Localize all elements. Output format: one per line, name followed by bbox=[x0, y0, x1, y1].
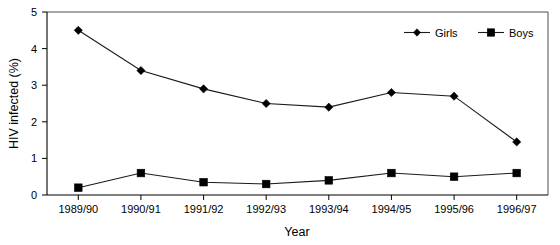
x-tick-label-4: 1993/94 bbox=[309, 203, 349, 215]
y-tick-label-2: 2 bbox=[31, 116, 37, 128]
data-point-boys-0 bbox=[75, 184, 83, 192]
x-axis-title: Year bbox=[284, 225, 309, 239]
x-tick-label-1: 1990/91 bbox=[121, 203, 161, 215]
data-point-boys-1 bbox=[137, 169, 145, 177]
legend-boys-label: Boys bbox=[509, 27, 534, 39]
x-tick-label-7: 1996/97 bbox=[497, 203, 537, 215]
legend-girls-label: Girls bbox=[435, 27, 458, 39]
y-axis-title: HIV infected (%) bbox=[7, 58, 21, 149]
data-point-boys-4 bbox=[325, 177, 333, 185]
data-point-boys-3 bbox=[262, 180, 270, 188]
data-point-boys-7 bbox=[513, 169, 521, 177]
line-chart: 0 1 2 3 4 5 HIV infected (%) 1989/90 199… bbox=[0, 0, 560, 245]
y-tick-marks bbox=[42, 12, 47, 195]
data-point-boys-2 bbox=[200, 178, 208, 186]
x-tick-label-0: 1989/90 bbox=[58, 203, 98, 215]
data-point-boys-5 bbox=[388, 169, 396, 177]
x-tick-marks bbox=[78, 195, 516, 200]
y-tick-label-0: 0 bbox=[31, 189, 37, 201]
y-tick-label-5: 5 bbox=[31, 6, 37, 18]
x-tick-label-6: 1995/96 bbox=[434, 203, 474, 215]
chart-figure: 0 1 2 3 4 5 HIV infected (%) 1989/90 199… bbox=[0, 0, 560, 245]
data-point-boys-6 bbox=[450, 173, 458, 181]
y-tick-label-1: 1 bbox=[31, 152, 37, 164]
plot-background bbox=[47, 12, 548, 195]
x-tick-label-5: 1994/95 bbox=[372, 203, 412, 215]
y-tick-label-4: 4 bbox=[31, 43, 37, 55]
y-tick-label-3: 3 bbox=[31, 79, 37, 91]
x-tick-label-2: 1991/92 bbox=[184, 203, 224, 215]
x-tick-label-3: 1992/93 bbox=[246, 203, 286, 215]
legend-boys-square-icon bbox=[487, 29, 494, 36]
